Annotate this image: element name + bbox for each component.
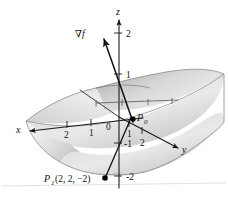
x-tick-label-2: 2: [64, 130, 69, 140]
gradient-label: ∇f: [75, 28, 86, 39]
z-tick-label-1: 1: [126, 70, 131, 80]
z-tick-label-neg2: -2: [126, 172, 134, 182]
point-p1-subscript: 1: [51, 179, 55, 187]
y-axis-label: y: [181, 144, 187, 155]
surface-plot-svg: z x y 2 1 -1 -2 2 1 0 1 2 ∇f P 0 P 1 (2,…: [0, 0, 228, 204]
y-tick-label-2: 2: [140, 138, 145, 148]
origin-label: 0: [106, 122, 111, 132]
x-tick-label-1: 1: [89, 128, 94, 138]
point-p1-dot: [102, 175, 108, 181]
y-tick-label-1: 1: [127, 129, 132, 139]
figure-canvas: z x y 2 1 -1 -2 2 1 0 1 2 ∇f P 0 P 1 (2,…: [0, 0, 228, 204]
point-p0-letter: P: [136, 112, 143, 123]
point-p0-dot: [130, 116, 135, 121]
z-tick-label-2: 2: [126, 29, 131, 39]
point-p0-subscript: 0: [144, 118, 148, 126]
ground-shadow-line: [2, 183, 226, 186]
point-p1-coords: (2, 2, −2): [55, 174, 90, 185]
saddle-surface: [26, 69, 224, 176]
point-p1-letter: P: [43, 173, 50, 184]
x-axis-label: x: [15, 124, 21, 135]
z-axis-label: z: [115, 6, 120, 17]
z-tick-label-neg1: -1: [124, 139, 132, 149]
